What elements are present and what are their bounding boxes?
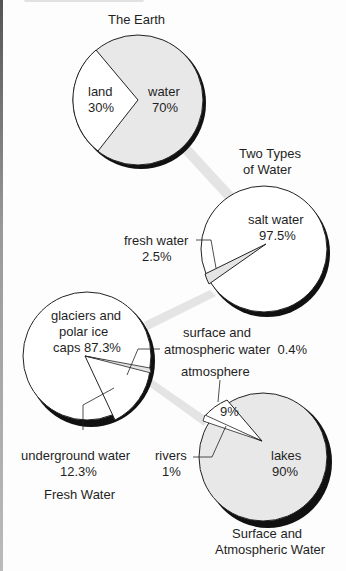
surface-atmos-title-line1: Surface and	[232, 526, 302, 542]
fresh-water-title: Fresh Water	[44, 487, 115, 503]
rivers-label: rivers	[155, 448, 187, 464]
glaciers-label-line1: glaciers and	[51, 308, 121, 324]
glaciers-label-line2: polar ice	[59, 324, 108, 340]
underground-value: 12.3%	[60, 464, 97, 480]
water-label: water	[148, 84, 180, 100]
two-types-pie	[196, 186, 330, 317]
two-types-title-line2: of Water	[243, 162, 292, 178]
lakes-value: 90%	[272, 464, 298, 480]
surface-atmos-pie	[193, 380, 332, 528]
fresh-water-value: 2.5%	[142, 249, 172, 265]
surface-atmos-label-line1: surface and	[183, 325, 251, 341]
connector-types-to-fresh	[144, 290, 216, 330]
rivers-value: 1%	[162, 464, 181, 480]
atmosphere-value: 9%	[220, 404, 239, 420]
glaciers-label-line3: caps 87.3%	[53, 340, 121, 356]
salt-water-label: salt water	[248, 212, 304, 228]
land-label: land	[88, 84, 113, 100]
earth-title: The Earth	[108, 12, 165, 28]
water-value: 70%	[152, 100, 178, 116]
atmosphere-label: atmosphere	[181, 364, 250, 380]
land-value: 30%	[88, 100, 114, 116]
fresh-water-label: fresh water	[124, 233, 188, 249]
underground-label: underground water	[21, 448, 130, 464]
salt-water-value: 97.5%	[259, 228, 296, 244]
surface-atmos-label-line2: atmospheric water 0.4%	[164, 342, 307, 358]
lakes-label: lakes	[271, 448, 301, 464]
connector-earth-to-types	[180, 146, 236, 200]
connector-fresh-to-surface	[146, 378, 208, 426]
surface-atmos-title-line2: Atmospheric Water	[215, 542, 325, 558]
two-types-title-line1: Two Types	[239, 146, 301, 162]
